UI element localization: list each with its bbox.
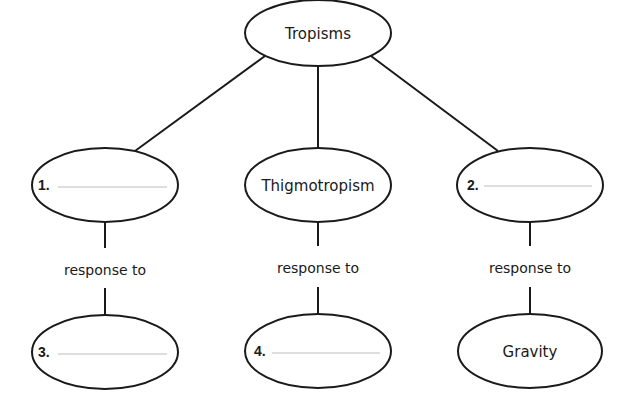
thigmotropism-label: Thigmotropism	[260, 177, 374, 195]
blank-number-1: 1.	[38, 177, 50, 193]
edge-label-3: response to	[489, 260, 571, 276]
stimulus-node-4: 4.	[245, 314, 391, 388]
tropism-node-1: 1.	[32, 148, 178, 222]
edge-label-1: response to	[64, 262, 146, 278]
blank-number-3: 3.	[38, 344, 50, 360]
tropisms-concept-map: Tropisms 1. Thigmotropism 2. response to…	[0, 0, 634, 408]
tropism-node-2: 2.	[457, 148, 603, 222]
stimulus-node-gravity: Gravity	[458, 314, 602, 388]
root-node: Tropisms	[245, 0, 391, 66]
edge-label-2: response to	[277, 260, 359, 276]
connector-root-to-branch-1	[135, 56, 265, 151]
root-node-label: Tropisms	[284, 25, 351, 43]
blank-number-2: 2.	[467, 177, 479, 193]
blank-number-4: 4.	[254, 343, 266, 359]
tropism-node-thigmotropism: Thigmotropism	[245, 148, 391, 222]
gravity-label: Gravity	[503, 343, 558, 361]
stimulus-node-3: 3.	[32, 315, 178, 389]
connector-root-to-branch-3	[371, 56, 498, 151]
